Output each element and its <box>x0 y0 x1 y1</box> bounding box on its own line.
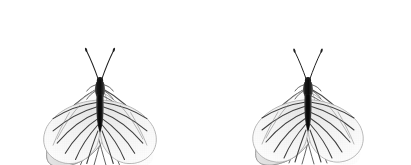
specimen-illustration <box>0 0 411 165</box>
specimen-plate: Butterfly specimen pair <box>0 0 411 165</box>
